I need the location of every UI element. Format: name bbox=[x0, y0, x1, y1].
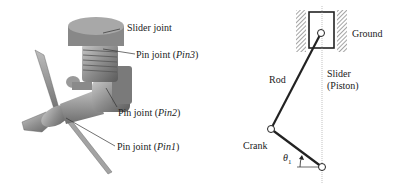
angle-arrow-icon bbox=[299, 155, 304, 160]
label-pin3: Pin joint (Pin3) bbox=[136, 49, 198, 60]
carburetor-stem bbox=[72, 82, 92, 90]
label-theta: θ1 bbox=[283, 152, 291, 168]
cylinder-head-top bbox=[68, 17, 124, 35]
pin-slider bbox=[318, 30, 325, 37]
label-pin1: Pin joint (Pin1) bbox=[117, 141, 179, 152]
ground-wall-right bbox=[337, 10, 347, 52]
label-pin1-name: Pin1 bbox=[157, 141, 176, 152]
label-pin2-name: Pin2 bbox=[158, 107, 177, 118]
label-pin1-suffix: ) bbox=[176, 141, 179, 152]
label-crank: Crank bbox=[243, 140, 267, 151]
ground-wall-left bbox=[296, 10, 306, 52]
label-pin2-suffix: ) bbox=[177, 107, 180, 118]
figure-canvas bbox=[0, 0, 403, 189]
label-ground: Ground bbox=[352, 28, 383, 39]
label-slider: Slider bbox=[327, 68, 351, 79]
cylinder bbox=[82, 44, 118, 82]
label-slider-joint: Slider joint bbox=[127, 22, 172, 33]
label-pin1-prefix: Pin joint ( bbox=[117, 141, 157, 152]
slider-crank-schematic bbox=[268, 6, 348, 184]
label-pin3-prefix: Pin joint ( bbox=[136, 49, 176, 60]
pin-ground bbox=[319, 164, 326, 171]
label-pin2-prefix: Pin joint ( bbox=[118, 107, 158, 118]
label-pin3-name: Pin3 bbox=[176, 49, 195, 60]
label-rod: Rod bbox=[269, 74, 286, 85]
engine-model bbox=[22, 17, 132, 174]
label-pin3-suffix: ) bbox=[195, 49, 198, 60]
propeller-blade-lower bbox=[64, 116, 112, 174]
propeller-blade-upper bbox=[35, 50, 60, 115]
label-pin2: Pin joint (Pin2) bbox=[118, 107, 180, 118]
crank-link bbox=[271, 129, 322, 167]
theta-subscript: 1 bbox=[288, 158, 292, 166]
label-piston: (Piston) bbox=[327, 80, 359, 91]
pin-crank-rod bbox=[268, 126, 275, 133]
